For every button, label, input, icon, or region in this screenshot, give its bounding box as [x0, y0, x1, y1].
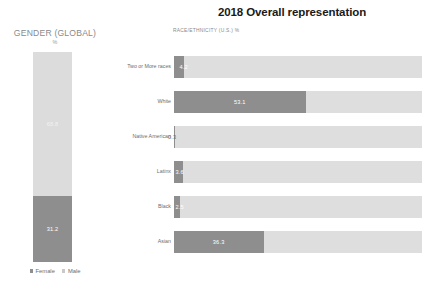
race-row-black[interactable]: Black 2.5 — [100, 196, 434, 218]
race-bar-value: 0.3 — [168, 134, 176, 140]
race-category-label: Latinx — [100, 169, 174, 174]
gender-segment-male-value: 31.2 — [47, 226, 59, 232]
gender-chart-unit: % — [0, 39, 110, 45]
gender-segment-male[interactable]: 31.2 — [33, 196, 72, 262]
race-row-native-american[interactable]: Native American 0.3 — [100, 126, 434, 148]
legend-item-female[interactable]: Female — [30, 268, 55, 274]
race-bar-list: Two or More races 4.2 White 53.1 Native … — [100, 38, 434, 270]
race-bar-value: 53.1 — [234, 99, 246, 105]
race-bar-track[interactable]: 0.3 — [174, 126, 422, 148]
race-row-white[interactable]: White 53.1 — [100, 91, 434, 113]
race-bar-track[interactable]: 2.5 — [174, 196, 422, 218]
race-row-latinx[interactable]: Latinx 3.6 — [100, 161, 434, 183]
gender-chart-heading: GENDER (GLOBAL) — [0, 28, 110, 38]
race-row-two-or-more-races[interactable]: Two or More races 4.2 — [100, 56, 434, 78]
race-category-label: Native American — [100, 134, 174, 139]
race-bar-value: 36.3 — [213, 239, 225, 245]
gender-stacked-bar[interactable]: 68.8 31.2 — [33, 52, 72, 262]
gender-chart-panel: GENDER (GLOBAL) % 68.8 31.2 Female Male — [0, 28, 110, 278]
race-bar-track[interactable]: 3.6 — [174, 161, 422, 183]
legend-label-female: Female — [36, 268, 55, 274]
race-category-label: Two or More races — [100, 64, 174, 69]
race-bar-track[interactable]: 4.2 — [174, 56, 422, 78]
legend-label-male: Male — [68, 268, 81, 274]
race-bar-value: 3.6 — [176, 169, 184, 175]
legend-swatch-female-icon — [30, 269, 34, 273]
race-bar-value: 4.2 — [180, 64, 188, 70]
slide-canvas: 2018 Overall representation GENDER (GLOB… — [0, 0, 434, 281]
race-bar-track[interactable]: 53.1 — [174, 91, 422, 113]
race-row-asian[interactable]: Asian 36.3 — [100, 231, 434, 253]
race-category-label: Black — [100, 204, 174, 209]
race-category-label: Asian — [100, 239, 174, 244]
page-title: 2018 Overall representation — [150, 6, 434, 18]
race-bar-value: 2.5 — [176, 204, 184, 210]
gender-segment-female[interactable]: 68.8 — [33, 52, 72, 196]
legend-item-male[interactable]: Male — [62, 268, 81, 274]
race-category-label: White — [100, 99, 174, 104]
legend-swatch-male-icon — [62, 269, 66, 273]
gender-legend: Female Male — [0, 268, 110, 274]
race-chart-axis-label: RACE/ETHNICITY (U.S.) % — [173, 28, 239, 33]
race-ethnicity-chart-panel: RACE/ETHNICITY (U.S.) % Two or More race… — [100, 28, 434, 273]
race-bar-track[interactable]: 36.3 — [174, 231, 422, 253]
gender-segment-female-value: 68.8 — [47, 121, 59, 127]
